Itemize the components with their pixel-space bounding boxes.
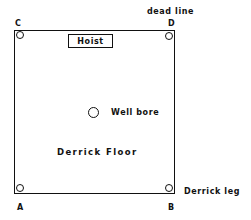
corner-a-label: A xyxy=(17,204,24,212)
hoist-box: Hoist xyxy=(68,34,113,48)
hoist-label: Hoist xyxy=(77,37,104,46)
derrick-leg-a-icon xyxy=(16,184,24,192)
derrick-floor-label: Derrick Floor xyxy=(57,148,138,157)
dead-line-label: dead line xyxy=(147,8,194,16)
well-bore-icon xyxy=(88,107,99,118)
corner-d-label: D xyxy=(168,20,175,28)
corner-c-label: C xyxy=(15,20,21,28)
derrick-leg-b-icon xyxy=(165,184,173,192)
derrick-leg-label: Derrick leg xyxy=(184,188,240,196)
corner-b-label: B xyxy=(168,204,175,212)
well-bore-label: Well bore xyxy=(111,109,159,117)
derrick-leg-c-icon xyxy=(16,31,24,39)
derrick-leg-d-icon xyxy=(165,32,173,40)
